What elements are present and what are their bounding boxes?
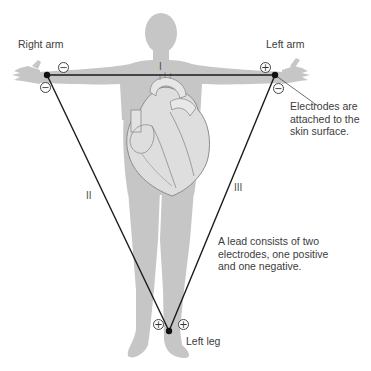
left-leg-label: Left leg — [186, 335, 220, 347]
left-arm-label: Left arm — [266, 38, 305, 50]
polarity-negative-icon: − — [40, 82, 51, 93]
einthoven-triangle-diagram: Right arm Left arm Left leg I II III − −… — [0, 0, 371, 371]
polarity-positive-icon: + — [260, 62, 271, 73]
polarity-positive-icon: + — [153, 319, 164, 330]
electrode-left-leg — [166, 328, 172, 334]
lead-ii-label: II — [86, 190, 92, 201]
polarity-negative-icon: − — [58, 62, 69, 73]
polarity-positive-icon: + — [178, 319, 189, 330]
polarity-negative-icon: − — [273, 83, 284, 94]
electrode-left-arm — [272, 72, 278, 78]
lead-i-label: I — [159, 61, 162, 72]
body-and-leads-figure — [0, 0, 371, 371]
lead-note: A lead consists of two electrodes, one p… — [218, 235, 338, 273]
electrodes-note: Electrodes are attached to the skin surf… — [290, 100, 370, 138]
right-arm-label: Right arm — [18, 38, 64, 50]
lead-iii-label: III — [234, 182, 242, 193]
electrode-right-arm — [44, 72, 50, 78]
